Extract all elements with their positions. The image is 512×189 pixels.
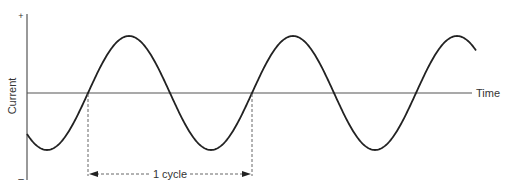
y-axis-negative-marker: – [18, 173, 24, 184]
arrow-left-icon [89, 171, 98, 177]
ac-waveform-diagram: 1 cycle Time Current + – [0, 0, 512, 189]
arrow-right-icon [242, 171, 251, 177]
x-axis-label: Time [476, 87, 500, 99]
y-axis-positive-marker: + [18, 11, 23, 21]
cycle-label: 1 cycle [153, 168, 187, 180]
y-axis-label: Current [6, 78, 18, 115]
